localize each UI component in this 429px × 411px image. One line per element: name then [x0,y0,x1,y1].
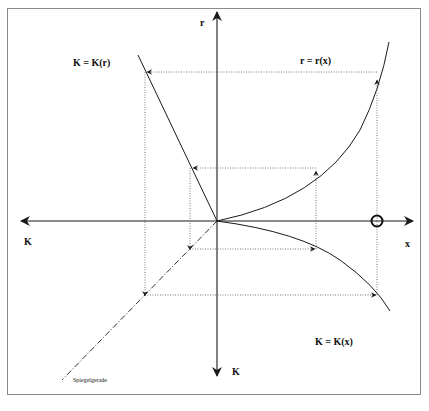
mirror-line [62,221,217,380]
construction-lines [145,72,377,296]
axis-label-r: r [200,17,204,28]
four-quadrant-diagram [0,0,429,411]
label-k-of-x: K = K(x) [315,336,353,347]
label-r-of-x: r = r(x) [300,55,331,66]
r-of-x-curve [217,42,389,221]
k-of-x-curve [217,221,390,311]
label-mirror-line: Spiegelgerade [73,377,107,383]
curves [62,42,390,380]
k-of-r-line [138,55,217,221]
label-k-of-r: K = K(r) [73,57,110,68]
axis-label-x: x [405,238,410,249]
axis-label-k-bottom: K [232,366,240,377]
axis-label-k-left: K [24,236,32,247]
